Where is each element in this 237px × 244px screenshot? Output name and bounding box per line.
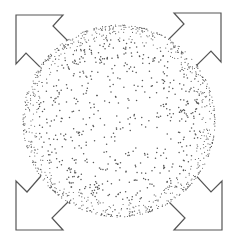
stipple-dot bbox=[91, 52, 93, 54]
stipple-dot bbox=[44, 109, 46, 111]
stipple-dot bbox=[154, 194, 155, 195]
stipple-dot bbox=[199, 113, 201, 115]
expand-sphere-graphic bbox=[0, 0, 237, 244]
stipple-dot bbox=[107, 76, 109, 78]
stipple-dot bbox=[82, 130, 84, 132]
stipple-dot bbox=[77, 63, 79, 65]
stipple-dot bbox=[41, 146, 43, 148]
stipple-dot bbox=[188, 186, 189, 187]
stipple-dot bbox=[103, 202, 104, 203]
stipple-dot bbox=[162, 206, 163, 207]
stipple-dot bbox=[64, 138, 66, 140]
stipple-dot bbox=[65, 200, 66, 201]
stipple-dot bbox=[107, 57, 109, 59]
stipple-dot bbox=[94, 41, 95, 42]
stipple-dot bbox=[30, 95, 31, 96]
stipple-dot bbox=[72, 140, 74, 142]
stipple-dot bbox=[140, 214, 141, 215]
stipple-dot bbox=[39, 116, 41, 118]
stipple-dot bbox=[145, 211, 146, 212]
stipple-dot bbox=[201, 93, 202, 94]
stipple-dot bbox=[184, 59, 185, 60]
stipple-dot bbox=[32, 89, 33, 90]
stipple-dot bbox=[59, 161, 61, 163]
stipple-dot bbox=[110, 33, 111, 34]
stipple-dot bbox=[168, 91, 170, 93]
stipple-dot bbox=[84, 188, 86, 190]
stipple-dot bbox=[194, 99, 196, 101]
stipple-dot bbox=[195, 178, 196, 179]
stipple-dot bbox=[169, 113, 171, 115]
stipple-dot bbox=[170, 56, 171, 57]
stipple-dot bbox=[81, 56, 83, 58]
stipple-dot bbox=[170, 117, 172, 119]
stipple-dot bbox=[171, 52, 172, 53]
stipple-dot bbox=[31, 132, 32, 133]
stipple-dot bbox=[139, 210, 140, 211]
stipple-dot bbox=[43, 63, 44, 64]
stipple-dot bbox=[201, 100, 202, 101]
stipple-dot bbox=[105, 210, 106, 211]
stipple-dot bbox=[109, 44, 111, 46]
stipple-dot bbox=[147, 154, 149, 156]
stipple-dot bbox=[149, 209, 150, 210]
stipple-dot bbox=[175, 45, 176, 46]
stipple-dot bbox=[78, 208, 79, 209]
stipple-dot bbox=[165, 193, 166, 194]
stipple-dot bbox=[79, 45, 80, 46]
stipple-dot bbox=[58, 49, 59, 50]
stipple-dot bbox=[66, 193, 67, 194]
stipple-dot bbox=[83, 153, 85, 155]
stipple-dot bbox=[109, 156, 111, 158]
stipple-dot bbox=[160, 34, 161, 35]
stipple-dot bbox=[62, 160, 64, 162]
stipple-dot bbox=[202, 164, 203, 165]
stipple-dot bbox=[129, 27, 130, 28]
stipple-dot bbox=[156, 32, 157, 33]
stipple-dot bbox=[166, 103, 168, 105]
stipple-dot bbox=[33, 113, 34, 114]
stipple-dot bbox=[118, 102, 120, 104]
stipple-dot bbox=[198, 89, 199, 90]
stipple-dot bbox=[206, 135, 207, 136]
stipple-dot bbox=[82, 43, 83, 44]
stipple-dot bbox=[135, 166, 137, 168]
stipple-dot bbox=[30, 98, 31, 99]
stipple-dot bbox=[172, 42, 173, 43]
stipple-dot bbox=[143, 54, 145, 56]
stipple-dot bbox=[96, 192, 98, 194]
stipple-dot bbox=[106, 58, 108, 60]
stipple-dot bbox=[129, 211, 130, 212]
stipple-dot bbox=[36, 136, 37, 137]
stipple-dot bbox=[69, 182, 71, 184]
stipple-dot bbox=[125, 25, 126, 26]
stipple-dot bbox=[86, 162, 88, 164]
stipple-dot bbox=[96, 182, 98, 184]
stipple-dot bbox=[186, 115, 188, 117]
stipple-dot bbox=[74, 147, 76, 149]
stipple-dot bbox=[99, 167, 101, 169]
stipple-dot bbox=[86, 211, 87, 212]
stipple-dot bbox=[185, 189, 186, 190]
stipple-dot bbox=[135, 147, 137, 149]
stipple-dot bbox=[179, 120, 181, 122]
stipple-dot bbox=[32, 119, 33, 120]
stipple-dot bbox=[132, 196, 134, 198]
stipple-dot bbox=[43, 101, 45, 103]
stipple-dot bbox=[82, 70, 84, 72]
stipple-dot bbox=[47, 182, 48, 183]
stipple-dot bbox=[209, 144, 210, 145]
stipple-dot bbox=[27, 145, 28, 146]
stipple-dot bbox=[181, 69, 183, 71]
stipple-dot bbox=[118, 25, 119, 26]
stipple-dot bbox=[103, 63, 105, 65]
stipple-dot bbox=[208, 139, 209, 140]
stipple-dot bbox=[107, 163, 109, 165]
stipple-dot bbox=[181, 64, 182, 65]
stipple-dot bbox=[95, 187, 97, 189]
stipple-dot bbox=[24, 113, 25, 114]
stipple-dot bbox=[183, 189, 184, 190]
stipple-dot bbox=[170, 180, 172, 182]
stipple-dot bbox=[79, 76, 81, 78]
stipple-dot bbox=[40, 75, 41, 76]
